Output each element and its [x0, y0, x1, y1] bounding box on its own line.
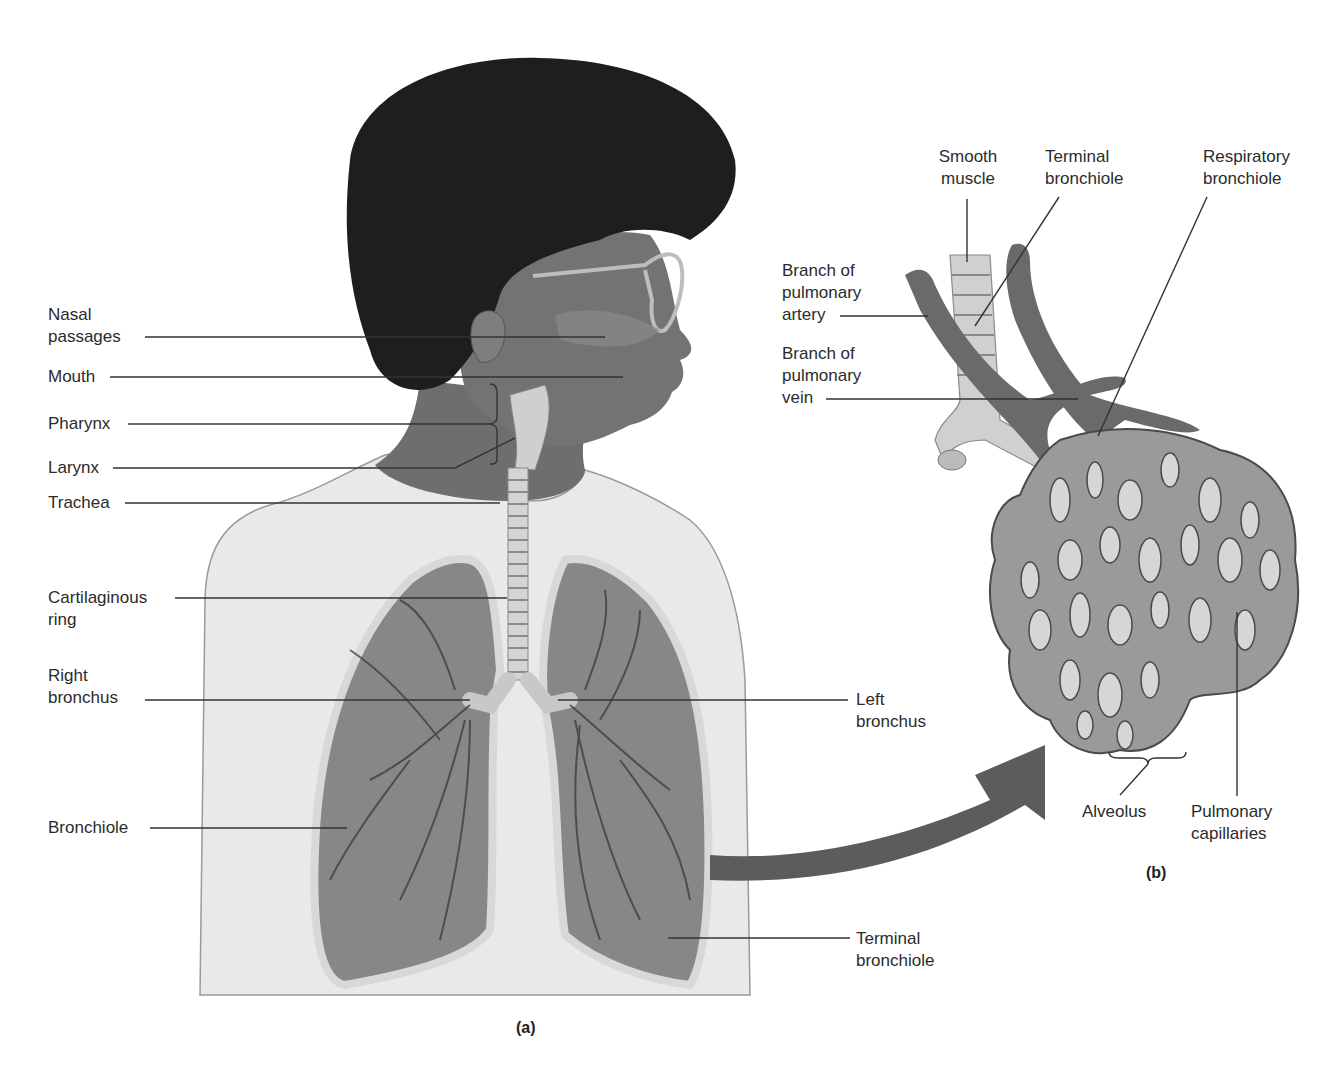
- label-line: Terminal: [1045, 147, 1109, 166]
- label-cartilaginous-ring: Cartilaginousring: [48, 587, 147, 631]
- alveoli-illustration: [905, 244, 1298, 753]
- label-line: Left: [856, 690, 884, 709]
- label-line: Branch of: [782, 344, 855, 363]
- label-line: artery: [782, 305, 825, 324]
- label-line: bronchus: [48, 688, 118, 707]
- label-line: Right: [48, 666, 88, 685]
- label-smooth-muscle: Smoothmuscle: [925, 146, 1011, 190]
- label-trachea: Trachea: [48, 492, 110, 514]
- label-respiratory-bronchiole: Respiratorybronchiole: [1203, 146, 1290, 190]
- torso-illustration: [200, 58, 1045, 995]
- magnify-arrow: [710, 745, 1045, 881]
- label-line: muscle: [941, 169, 995, 188]
- label-line: pulmonary: [782, 283, 861, 302]
- label-left-bronchus: Leftbronchus: [856, 689, 926, 733]
- label-line: Terminal: [856, 929, 920, 948]
- bronchiole-opening: [938, 450, 966, 470]
- label-line: Nasal: [48, 305, 91, 324]
- label-line: Cartilaginous: [48, 588, 147, 607]
- label-line: Branch of: [782, 261, 855, 280]
- label-bronchiole: Bronchiole: [48, 817, 128, 839]
- label-mouth: Mouth: [48, 366, 95, 388]
- label-line: pulmonary: [782, 366, 861, 385]
- panel-label-a: (a): [516, 1019, 536, 1037]
- label-line: capillaries: [1191, 824, 1267, 843]
- label-line: bronchus: [856, 712, 926, 731]
- label-pulmonary-capillaries: Pulmonarycapillaries: [1191, 801, 1272, 845]
- label-alveolus: Alveolus: [1082, 801, 1146, 823]
- label-line: bronchiole: [1045, 169, 1123, 188]
- label-pulmonary-artery-branch: Branch ofpulmonaryartery: [782, 260, 861, 326]
- label-line: ring: [48, 610, 76, 629]
- label-terminal-bronchiole-b: Terminalbronchiole: [1045, 146, 1123, 190]
- label-nasal-passages: Nasalpassages: [48, 304, 121, 348]
- label-pulmonary-vein-branch: Branch ofpulmonaryvein: [782, 343, 861, 409]
- label-line: bronchiole: [856, 951, 934, 970]
- respiratory-diagram: Nasalpassages Mouth Pharynx Larynx Trach…: [0, 0, 1342, 1077]
- label-line: Respiratory: [1203, 147, 1290, 166]
- panel-label-b: (b): [1146, 864, 1166, 882]
- label-right-bronchus: Rightbronchus: [48, 665, 118, 709]
- label-terminal-bronchiole-a: Terminalbronchiole: [856, 928, 934, 972]
- label-line: vein: [782, 388, 813, 407]
- label-larynx: Larynx: [48, 457, 99, 479]
- label-line: passages: [48, 327, 121, 346]
- label-line: Smooth: [939, 147, 998, 166]
- label-line: bronchiole: [1203, 169, 1281, 188]
- label-pharynx: Pharynx: [48, 413, 110, 435]
- diagram-artwork: [0, 0, 1342, 1077]
- label-line: Pulmonary: [1191, 802, 1272, 821]
